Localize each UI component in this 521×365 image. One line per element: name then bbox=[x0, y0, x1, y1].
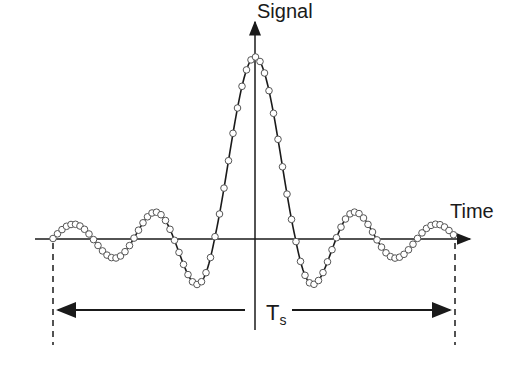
sample-point-marker bbox=[212, 233, 219, 240]
sample-point-marker bbox=[450, 232, 457, 239]
sample-point-marker bbox=[135, 227, 142, 234]
sinc-signal-diagram: Signal Time Ts bbox=[0, 0, 521, 365]
y-axis-label: Signal bbox=[257, 0, 313, 23]
sample-point-marker bbox=[158, 211, 165, 218]
sample-point-marker bbox=[315, 277, 322, 284]
sample-point-marker bbox=[131, 235, 138, 242]
sample-point-marker bbox=[180, 261, 187, 268]
sample-point-marker bbox=[176, 249, 183, 256]
sample-point-marker bbox=[365, 221, 372, 228]
sample-point-marker bbox=[216, 211, 223, 218]
sample-point-marker bbox=[198, 278, 205, 285]
sample-point-marker bbox=[320, 269, 327, 276]
sample-point-marker bbox=[284, 191, 291, 198]
sample-point-marker bbox=[266, 87, 273, 94]
sample-point-marker bbox=[225, 157, 232, 164]
sample-point-marker bbox=[203, 269, 210, 276]
sample-point-marker bbox=[360, 215, 367, 222]
signal-plot bbox=[0, 0, 521, 365]
sample-point-marker bbox=[207, 254, 214, 261]
sampling-window-label: Ts bbox=[264, 300, 288, 328]
sample-point-marker bbox=[369, 229, 376, 236]
sample-point-marker bbox=[410, 241, 417, 248]
sample-point-marker bbox=[302, 272, 309, 279]
sample-point-marker bbox=[297, 258, 304, 265]
sample-point-marker bbox=[234, 105, 241, 112]
sample-point-marker bbox=[333, 234, 340, 241]
sample-point-marker bbox=[288, 216, 295, 223]
sample-point-marker bbox=[122, 248, 129, 255]
sample-point-marker bbox=[171, 237, 178, 244]
sample-point-marker bbox=[324, 259, 331, 266]
sample-point-marker bbox=[279, 164, 286, 171]
sample-point-marker bbox=[378, 244, 385, 251]
sample-point-marker bbox=[243, 67, 250, 74]
sinc-signal-curve bbox=[53, 57, 455, 285]
sample-point-marker bbox=[293, 238, 300, 245]
sample-point-marker bbox=[374, 237, 381, 244]
span-label-subscript: s bbox=[279, 312, 286, 328]
sample-point-marker bbox=[221, 185, 228, 192]
sample-point-marker bbox=[86, 231, 93, 238]
sample-point-marker bbox=[230, 130, 237, 137]
sample-point-marker bbox=[126, 242, 133, 249]
sample-point-marker bbox=[90, 236, 97, 243]
sample-point-marker bbox=[140, 220, 147, 227]
sample-point-marker bbox=[405, 247, 412, 254]
sample-point-marker bbox=[414, 235, 421, 242]
sample-point-marker bbox=[338, 224, 345, 231]
sample-point-marker bbox=[261, 70, 268, 77]
x-axis-label: Time bbox=[450, 200, 494, 223]
sample-point-marker bbox=[329, 246, 336, 253]
sample-point-marker bbox=[270, 110, 277, 117]
sample-point-marker bbox=[167, 226, 174, 233]
sample-point-marker bbox=[239, 83, 246, 90]
span-label-main: T bbox=[266, 300, 279, 325]
sample-point-marker bbox=[257, 58, 264, 65]
sample-point-marker bbox=[162, 217, 169, 224]
sample-point-marker bbox=[275, 136, 282, 143]
sample-point-marker bbox=[185, 271, 192, 278]
